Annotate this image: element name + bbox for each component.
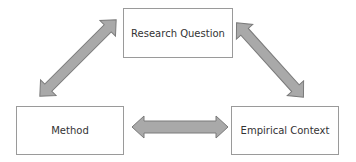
node-research-question: Research Question xyxy=(123,8,233,58)
arrow-method-empirical-context xyxy=(132,116,228,138)
node-label: Empirical Context xyxy=(241,125,330,136)
arrow-method-research-question xyxy=(32,12,124,104)
arrow-research-question-empirical-context xyxy=(228,15,311,104)
node-method: Method xyxy=(16,106,124,155)
node-label: Research Question xyxy=(131,28,225,39)
node-label: Method xyxy=(51,125,89,136)
node-empirical-context: Empirical Context xyxy=(231,106,339,155)
